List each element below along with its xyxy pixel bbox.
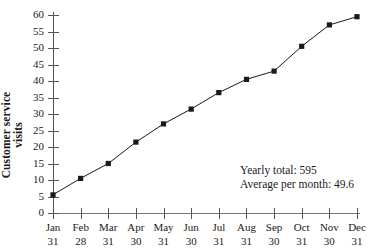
data-point-marker: [272, 69, 277, 74]
data-point-marker: [161, 121, 166, 126]
data-point-marker: [354, 14, 359, 19]
data-point-marker: [189, 107, 194, 112]
data-point-marker: [327, 22, 332, 27]
annotation-yearly-total: Yearly total: 595: [240, 163, 354, 177]
data-point-marker: [78, 176, 83, 181]
data-point-marker: [299, 44, 304, 49]
line-chart: Customer service visits 0510152025303540…: [0, 0, 373, 252]
data-point-marker: [244, 77, 249, 82]
summary-annotation: Yearly total: 595 Average per month: 49.…: [240, 163, 354, 191]
data-point-marker: [50, 192, 55, 197]
data-point-marker: [133, 140, 138, 145]
data-point-marker: [216, 90, 221, 95]
data-point-marker: [106, 161, 111, 166]
data-series: [0, 0, 373, 252]
annotation-average-per-month: Average per month: 49.6: [240, 177, 354, 191]
